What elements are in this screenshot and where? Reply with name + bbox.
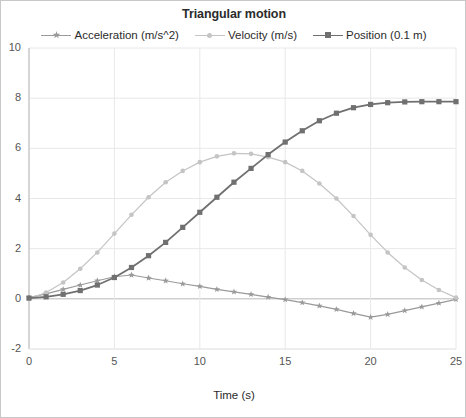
x-tick-label: 10 [190, 355, 210, 367]
x-tick-label: 5 [104, 355, 124, 367]
chart-figure: Triangular motion Acceleration (m/s^2) V… [0, 0, 466, 418]
y-tick-label: 10 [9, 41, 21, 53]
x-axis-label: Time (s) [1, 389, 466, 401]
y-tick-label: 0 [15, 292, 21, 304]
plot-area [1, 1, 466, 418]
y-tick-label: 4 [15, 192, 21, 204]
x-tick-label: 25 [446, 355, 466, 367]
plot-svg [1, 1, 466, 418]
y-tick-label: -2 [11, 342, 21, 354]
y-tick-label: 2 [15, 242, 21, 254]
x-tick-label: 20 [361, 355, 381, 367]
x-tick-label: 0 [19, 355, 39, 367]
y-tick-label: 8 [15, 91, 21, 103]
y-tick-label: 6 [15, 141, 21, 153]
x-tick-label: 15 [275, 355, 295, 367]
